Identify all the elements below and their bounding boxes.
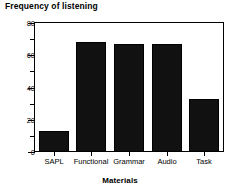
x-tick-label-functional: Functional xyxy=(74,157,109,166)
x-tick-label-task: Task xyxy=(196,157,211,166)
y-tick-label-20: 20 xyxy=(11,116,35,125)
y-tick-minor-50 xyxy=(30,71,35,72)
x-tick-label-grammar: Grammar xyxy=(113,157,145,166)
y-tick-minor-70 xyxy=(30,39,35,40)
y-tick-label-40: 40 xyxy=(11,84,35,93)
x-tick-task xyxy=(204,152,205,156)
x-tick-sapl xyxy=(54,152,55,156)
x-tick-label-sapl: SAPL xyxy=(44,157,63,166)
y-tick-label-0: 0 xyxy=(11,148,35,157)
y-axis: 020406080SAPLFunctionalGrammarAudioTask xyxy=(0,0,240,194)
y-tick-minor-10 xyxy=(30,136,35,137)
y-tick-label-80: 80 xyxy=(11,19,35,28)
bar-chart: Frequency of listening 020406080SAPLFunc… xyxy=(0,0,240,194)
x-tick-label-audio: Audio xyxy=(157,157,176,166)
x-axis-title: Materials xyxy=(0,176,240,185)
y-tick-minor-30 xyxy=(30,104,35,105)
y-tick-label-60: 60 xyxy=(11,51,35,60)
x-tick-grammar xyxy=(129,152,130,156)
x-tick-audio xyxy=(167,152,168,156)
x-tick-functional xyxy=(91,152,92,156)
